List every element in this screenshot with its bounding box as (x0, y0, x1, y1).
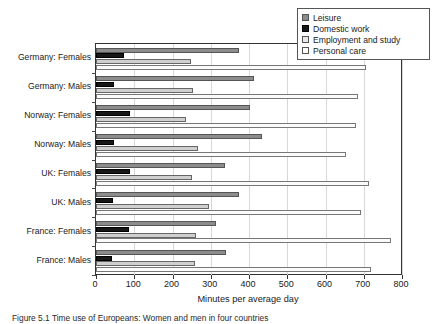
bar-leisure (96, 48, 239, 53)
bar-domestic (96, 256, 112, 261)
bar-group (96, 188, 402, 217)
x-tick-label-500: 500 (266, 279, 306, 289)
bar-domestic (96, 198, 113, 203)
bar-leisure (96, 134, 262, 139)
legend-swatch-personal-icon (302, 47, 309, 54)
bar-group (96, 102, 402, 131)
bar-domestic (96, 111, 130, 116)
legend-label: Leisure (313, 13, 341, 23)
y-axis-label-norway-males: Norway: Males (0, 140, 91, 149)
bar-employment (96, 204, 209, 209)
bar-leisure (96, 163, 225, 168)
bar-personal (96, 181, 369, 186)
y-axis-label-france-females: France: Females (0, 227, 91, 236)
x-tick-label-100: 100 (113, 279, 153, 289)
y-tick (92, 160, 96, 161)
bar-leisure (96, 192, 239, 197)
bar-employment (96, 146, 198, 151)
x-axis-title: Minutes per average day (95, 294, 401, 304)
x-tick-label-0: 0 (75, 279, 115, 289)
legend-item-employment: Employment and study (302, 34, 425, 45)
bar-employment (96, 59, 191, 64)
y-axis-label-uk-males: UK: Males (0, 198, 91, 207)
y-tick (92, 102, 96, 103)
bar-group (96, 160, 402, 189)
x-tick-label-600: 600 (305, 279, 345, 289)
bar-leisure (96, 250, 226, 255)
gridline-800 (402, 44, 403, 275)
legend-label: Personal care (313, 46, 366, 56)
x-tick-label-300: 300 (190, 279, 230, 289)
bar-personal (96, 94, 358, 99)
y-tick (92, 188, 96, 189)
bar-domestic (96, 140, 114, 145)
bar-employment (96, 117, 186, 122)
y-tick (92, 73, 96, 74)
x-tick-label-400: 400 (228, 279, 268, 289)
y-axis-label-germany-females: Germany: Females (0, 53, 91, 62)
bar-personal (96, 210, 361, 215)
y-axis-label-uk-females: UK: Females (0, 169, 91, 178)
bar-domestic (96, 169, 130, 174)
legend: LeisureDomestic workEmployment and study… (297, 8, 430, 60)
bar-group (96, 73, 402, 102)
bar-employment (96, 88, 193, 93)
legend-label: Domestic work (313, 24, 369, 34)
bar-employment (96, 261, 195, 266)
bar-personal (96, 123, 356, 128)
y-axis-label-norway-females: Norway: Females (0, 111, 91, 120)
bar-group (96, 246, 402, 275)
bar-domestic (96, 82, 114, 87)
y-tick (92, 246, 96, 247)
x-tick-label-800: 800 (381, 279, 421, 289)
bar-employment (96, 233, 196, 238)
bar-employment (96, 175, 192, 180)
bar-group (96, 131, 402, 160)
y-tick (92, 275, 96, 276)
y-tick (92, 131, 96, 132)
figure-caption: Figure 5.1 Time use of Europeans: Women … (12, 313, 440, 323)
legend-item-personal: Personal care (302, 45, 425, 56)
bar-personal (96, 238, 391, 243)
bar-domestic (96, 227, 129, 232)
y-axis-label-germany-males: Germany: Males (0, 82, 91, 91)
y-tick (92, 217, 96, 218)
bar-domestic (96, 53, 124, 58)
legend-swatch-leisure-icon (302, 14, 309, 21)
legend-item-domestic: Domestic work (302, 23, 425, 34)
bar-personal (96, 267, 371, 272)
y-axis-label-france-males: France: Males (0, 256, 91, 265)
legend-swatch-employment-icon (302, 36, 309, 43)
legend-item-leisure: Leisure (302, 12, 425, 23)
bar-leisure (96, 105, 250, 110)
x-tick-label-700: 700 (343, 279, 383, 289)
bar-leisure (96, 221, 216, 226)
bar-personal (96, 65, 366, 70)
legend-swatch-domestic-icon (302, 25, 309, 32)
plot-area (95, 44, 401, 275)
legend-label: Employment and study (313, 35, 400, 45)
bar-group (96, 217, 402, 246)
bar-leisure (96, 76, 254, 81)
bar-chart: Germany: FemalesGermany: MalesNorway: Fe… (0, 0, 440, 324)
bar-personal (96, 152, 346, 157)
x-tick-label-200: 200 (152, 279, 192, 289)
